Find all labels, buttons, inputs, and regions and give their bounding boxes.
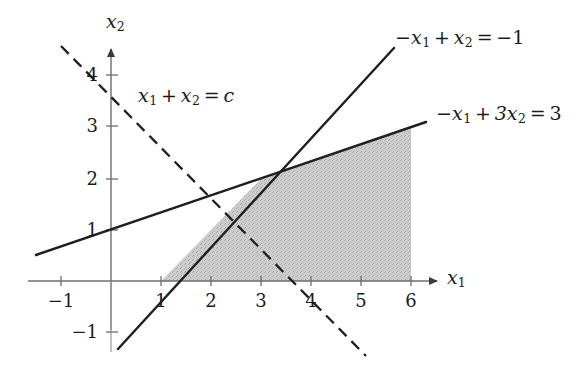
x-axis-title: x1 <box>447 268 466 290</box>
linear-programming-figure: x2 x1 −1 1 2 3 4 5 6 4 3 2 1 −1 −x1 + x2… <box>0 0 578 386</box>
feasible-region <box>161 128 411 281</box>
y-tick-label-2: 2 <box>76 170 98 188</box>
y-axis-ticks <box>106 75 118 332</box>
x-tick-label-4: 4 <box>296 292 326 310</box>
x-tick-label-minus1: −1 <box>41 292 81 310</box>
x-tick-label-5: 5 <box>346 292 376 310</box>
x-tick-label-1: 1 <box>146 292 176 310</box>
y-axis-title: x2 <box>106 12 125 34</box>
y-tick-label-1: 1 <box>76 221 98 239</box>
x-tick-label-6: 6 <box>396 292 426 310</box>
y-tick-label-4: 4 <box>76 66 98 84</box>
annotation-x1-plus-x2-eq-c: x1 + x2 = c <box>138 86 234 108</box>
y-tick-label-3: 3 <box>76 117 98 135</box>
x-tick-label-2: 2 <box>196 292 226 310</box>
x-tick-label-3: 3 <box>246 292 276 310</box>
y-tick-label-minus1: −1 <box>64 323 98 341</box>
annotation-minus-x1-plus-x2-eq-minus-1: −x1 + x2 = −1 <box>395 28 524 50</box>
annotation-minus-x1-plus-3x2-eq-3: −x1 + 3x2 = 3 <box>436 104 562 126</box>
